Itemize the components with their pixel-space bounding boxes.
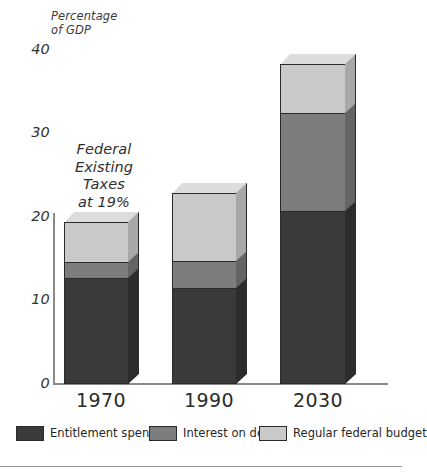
y-tick-0: 0 xyxy=(16,375,50,391)
bar-1970-seg-entitlement-spending xyxy=(64,278,129,384)
bar-1970-seg-interest-on-debt xyxy=(64,262,129,279)
legend-swatch-entitlement-spending xyxy=(16,426,44,441)
bar-2030-seg-regular-federal-budget xyxy=(280,64,346,114)
legend-swatch-regular-federal-budget xyxy=(259,426,287,441)
bar-1970-seg-regular-federal-budget xyxy=(64,222,129,263)
y-axis-line xyxy=(53,213,55,385)
y-tick-40: 40 xyxy=(16,41,50,57)
y-tick-10: 10 xyxy=(16,291,50,307)
x-tick-2030: 2030 xyxy=(273,389,363,411)
federal-taxes-annotation: Federal Existing Taxes at 19% xyxy=(56,141,152,211)
bar-1990-seg-interest-on-debt xyxy=(172,261,237,289)
bar-1990-side-entitlement-spending xyxy=(236,278,247,384)
bar-2030-side-entitlement-spending xyxy=(345,201,356,384)
bar-2030-seg-entitlement-spending xyxy=(280,211,346,384)
bar-1970-side-entitlement-spending xyxy=(128,268,139,384)
x-tick-1990: 1990 xyxy=(164,389,254,411)
y-tick-20: 20 xyxy=(16,208,50,224)
y-axis-title: Percentage of GDP xyxy=(51,10,117,37)
legend-label-regular-federal-budget: Regular federal budget xyxy=(293,425,427,442)
bar-1990-side-regular-federal-budget xyxy=(236,183,247,262)
bar-1990-seg-regular-federal-budget xyxy=(172,193,237,262)
x-tick-1970: 1970 xyxy=(56,389,146,411)
y-tick-30: 30 xyxy=(16,124,50,140)
bar-2030-seg-interest-on-debt xyxy=(280,113,346,212)
legend-swatch-interest-on-debt xyxy=(149,426,177,441)
bar-2030-side-interest-on-debt xyxy=(345,103,356,212)
footer-divider xyxy=(0,466,402,467)
bar-1990-seg-entitlement-spending xyxy=(172,288,237,384)
chart-legend: Entitlement spending Interest on debt Re… xyxy=(0,425,402,447)
